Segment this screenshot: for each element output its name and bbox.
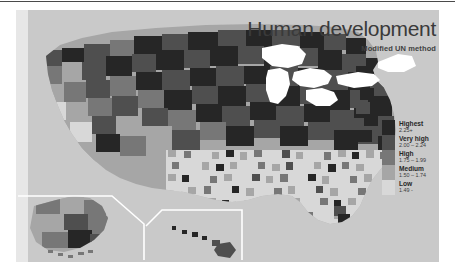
legend-item-medium: Medium 1.50 – 1.74	[382, 165, 439, 180]
legend-label-high: High	[399, 151, 426, 158]
figure-root: Human development Modified UN method Hig…	[0, 0, 455, 273]
legend-swatch-highest	[382, 120, 395, 135]
legend-swatch-medium	[382, 165, 395, 180]
alaska-inset-group	[16, 190, 144, 262]
legend-item-very-high: Very high 2.00 – 2.24	[382, 135, 439, 150]
legend-swatch-high	[382, 150, 395, 165]
legend-item-low: Low 1.49 -	[382, 180, 439, 195]
legend-label-low: Low	[399, 181, 413, 188]
legend-range-high: 1.75 – 1.99	[399, 158, 426, 163]
legend-label-highest: Highest	[399, 121, 423, 128]
legend-label-medium: Medium	[399, 166, 426, 173]
us-county-choropleth-svg	[16, 10, 439, 262]
atlantic-water	[378, 54, 416, 72]
legend-text-medium: Medium 1.50 – 1.74	[399, 165, 426, 179]
legend-item-high: High 1.75 – 1.99	[382, 150, 439, 165]
legend-text-high: High 1.75 – 1.99	[399, 150, 426, 164]
legend-item-highest: Highest 2.25+	[382, 120, 439, 135]
legend-range-very-high: 2.00 – 2.24	[399, 143, 429, 148]
choropleth-map-panel: Human development Modified UN method Hig…	[16, 10, 439, 262]
legend-label-very-high: Very high	[399, 136, 429, 143]
legend-text-highest: Highest 2.25+	[399, 120, 423, 134]
legend-text-low: Low 1.49 -	[399, 180, 413, 194]
legend-range-medium: 1.50 – 1.74	[399, 173, 426, 178]
map-legend: Highest 2.25+ Very high 2.00 – 2.24 High…	[382, 120, 439, 195]
legend-range-low: 1.49 -	[399, 188, 413, 193]
top-divider	[0, 1, 455, 2]
legend-swatch-low	[382, 180, 395, 195]
legend-text-very-high: Very high 2.00 – 2.24	[399, 135, 429, 149]
legend-range-highest: 2.25+	[399, 128, 423, 133]
legend-swatch-very-high	[382, 135, 395, 150]
